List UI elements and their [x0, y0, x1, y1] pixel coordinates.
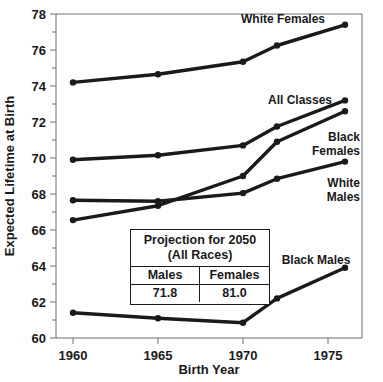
x-tick-label: 1960	[59, 348, 88, 363]
x-tick-label: 1970	[229, 348, 258, 363]
inset-header-row: Males Females	[131, 267, 269, 285]
series-label: White	[327, 176, 360, 190]
series-label: Black	[328, 130, 360, 144]
series-point	[70, 79, 76, 85]
inset-value-males: 71.8	[131, 285, 200, 302]
projection-inset-table: Projection for 2050 (All Races) Males Fe…	[130, 229, 270, 305]
series-point	[274, 123, 280, 129]
series-point	[70, 197, 76, 203]
series-point	[155, 71, 161, 77]
series-point	[274, 176, 280, 182]
series-label: Black Males	[282, 253, 351, 267]
series-point	[240, 173, 246, 179]
series-point	[240, 320, 246, 326]
x-axis-ticks: 1960196519701975	[59, 338, 343, 363]
y-tick-label: 70	[32, 151, 46, 166]
y-tick-label: 78	[32, 7, 46, 22]
series-label: Females	[312, 144, 360, 158]
series-line	[73, 162, 345, 202]
y-tick-label: 72	[32, 115, 46, 130]
y-tick-label: 76	[32, 43, 46, 58]
x-tick-label: 1975	[314, 348, 343, 363]
series-point	[342, 97, 348, 103]
chart-canvas: 60626466687072747678 1960196519701975 Wh…	[0, 0, 383, 382]
inset-value-row: 71.8 81.0	[131, 285, 269, 302]
series-label: Males	[327, 190, 361, 204]
y-tick-label: 60	[32, 331, 46, 346]
series-point	[70, 157, 76, 163]
series-point	[274, 42, 280, 48]
life-expectancy-chart: 60626466687072747678 1960196519701975 Wh…	[0, 0, 383, 382]
y-axis-ticks: 60626466687072747678	[32, 7, 56, 346]
inset-title-line2: (All Races)	[135, 248, 265, 263]
inset-header-males: Males	[131, 267, 200, 284]
y-tick-label: 74	[32, 79, 47, 94]
series-point	[70, 310, 76, 316]
series-point	[342, 108, 348, 114]
y-axis-title: Expected Lifetime at Birth	[2, 96, 17, 256]
series-point	[70, 217, 76, 223]
y-tick-label: 62	[32, 295, 46, 310]
inset-title: Projection for 2050 (All Races)	[131, 230, 269, 267]
inset-header-females: Females	[200, 267, 269, 284]
series-point	[240, 59, 246, 65]
series-label: All Classes	[268, 93, 332, 107]
y-tick-label: 66	[32, 223, 46, 238]
inset-title-line1: Projection for 2050	[135, 233, 265, 248]
series-line	[73, 25, 345, 83]
series-point	[274, 139, 280, 145]
series-point	[155, 152, 161, 158]
series-line	[73, 111, 345, 220]
series-point	[240, 142, 246, 148]
series-point	[342, 158, 348, 164]
y-tick-label: 64	[32, 259, 47, 274]
series-label: White Females	[241, 12, 325, 26]
series-point	[342, 22, 348, 28]
y-tick-label: 68	[32, 187, 46, 202]
series-point	[155, 198, 161, 204]
series-point	[240, 190, 246, 196]
x-tick-label: 1965	[144, 348, 173, 363]
x-axis-title: Birth Year	[178, 362, 239, 377]
inset-value-females: 81.0	[200, 285, 269, 302]
series-point	[155, 315, 161, 321]
series-point	[274, 295, 280, 301]
